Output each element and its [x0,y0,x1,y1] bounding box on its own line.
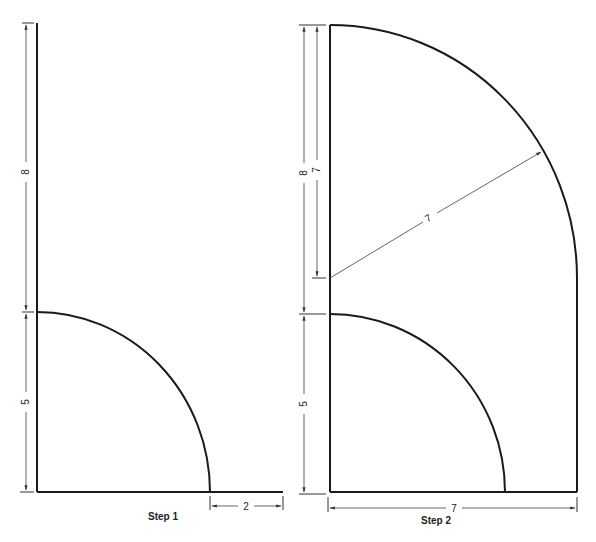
step1-caption: Step 1 [148,511,178,522]
step2-radius-label: 7 [423,212,434,225]
step1-dim-5-label: 5 [20,399,31,405]
step2-figure: 7 8 7 5 7 Step 2 [298,25,577,526]
step1-quarter-arc [37,312,210,492]
step2-small-arc [330,314,505,492]
step1-dim-2-label: 2 [243,501,249,512]
step2-dim-7-label: 7 [311,167,322,173]
step1-figure: 8 5 2 Step 1 [20,23,283,522]
step2-dim-5-label: 5 [298,401,309,407]
step2-dim-7-width-label: 7 [451,503,457,514]
step2-radius-line [330,222,423,278]
step2-caption: Step 2 [421,515,451,526]
step2-large-arc [330,25,577,278]
step2-dim-8-label: 8 [298,170,309,176]
pattern-diagram: 8 5 2 Step 1 7 8 7 [0,0,596,542]
step1-dim-8-label: 8 [20,169,31,175]
